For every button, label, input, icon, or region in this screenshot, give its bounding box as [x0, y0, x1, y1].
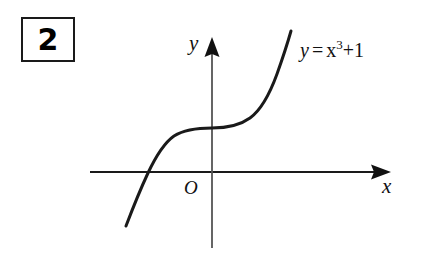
equation-lhs: y [300, 39, 309, 61]
coordinate-graph-figure: y x O y=x3+1 [0, 0, 426, 258]
equation-base: x [326, 39, 336, 61]
figure-page: 2 y x O y=x3+1 [0, 0, 426, 258]
origin-label: O [184, 178, 198, 197]
curve-equation-label: y=x3+1 [300, 40, 364, 60]
y-axis-arrowhead [205, 37, 220, 57]
x-axis-label: x [382, 176, 391, 197]
equation-remainder: +1 [343, 39, 364, 61]
y-axis-label: y [189, 33, 198, 54]
equation-equals-sign: = [309, 39, 326, 61]
cubic-curve [126, 31, 291, 226]
